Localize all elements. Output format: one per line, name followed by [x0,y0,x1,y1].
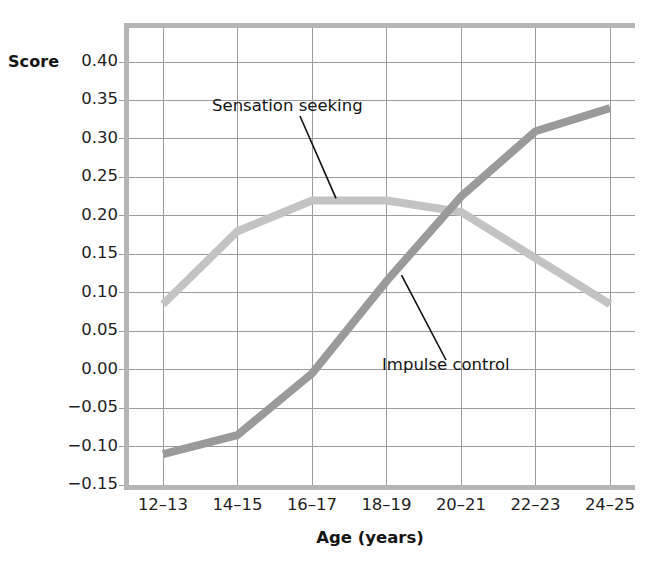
x-axis-tick-labels: 12–1314–1516–1718–1920–2122–2324–25 [0,0,648,562]
x-axis-title: Age (years) [125,528,615,547]
annotation-label-sensation-seeking: Sensation seeking [212,96,363,115]
chart-figure: Score 0.400.350.300.250.200.150.100.050.… [0,0,648,562]
x-tick-label: 24–25 [565,495,648,514]
annotation-label-impulse-control: Impulse control [382,355,510,374]
